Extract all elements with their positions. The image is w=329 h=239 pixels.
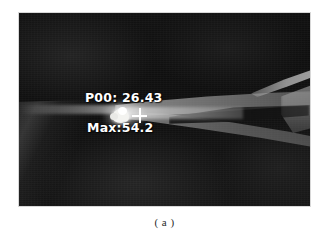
point-temperature-readout: P00: 26.43	[85, 90, 162, 105]
thermal-image: P00: 26.43 Max:54.2	[19, 13, 310, 206]
hotspot-blob-secondary	[110, 113, 118, 120]
figure-caption: ( a )	[0, 216, 329, 228]
hotspot-blob-core	[118, 107, 127, 115]
max-temperature-readout: Max:54.2	[87, 120, 153, 135]
figure-container: P00: 26.43 Max:54.2 ( a )	[0, 0, 329, 239]
